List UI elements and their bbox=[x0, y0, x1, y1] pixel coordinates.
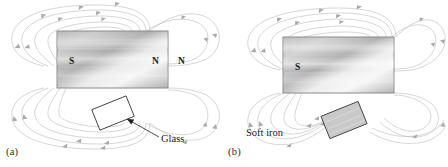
panel-a: S N N Glass bbox=[0, 0, 224, 167]
caption-b: (b) bbox=[228, 146, 241, 157]
soft-iron-label: Soft iron bbox=[246, 127, 284, 138]
pole-label-n-inside: N bbox=[152, 56, 159, 66]
pole-label-n-outside: N bbox=[178, 56, 185, 66]
caption-a: (a) bbox=[6, 146, 18, 157]
pole-label-s: S bbox=[295, 62, 300, 72]
glass-label: Glass bbox=[161, 133, 184, 144]
magnetic-field-figure: S N N Glass bbox=[0, 0, 448, 167]
glass-block bbox=[92, 96, 135, 130]
soft-iron-block bbox=[321, 101, 367, 138]
panel-b: S Soft iron bbox=[224, 0, 448, 167]
pole-label-s: S bbox=[69, 56, 74, 66]
